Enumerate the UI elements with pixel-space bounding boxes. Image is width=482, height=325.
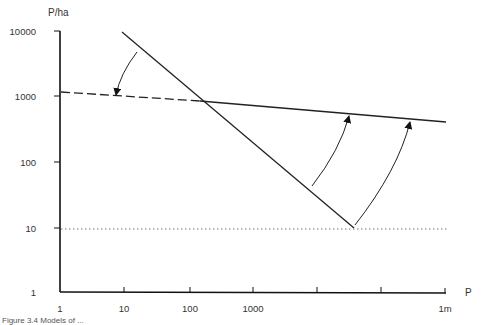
flat-dashed-line <box>61 92 200 101</box>
arrow-down-left <box>116 52 137 95</box>
y-ticks <box>54 31 60 228</box>
descending-line <box>122 32 354 228</box>
figure-caption: Figure 3.4 Models of ... <box>2 316 84 325</box>
y-axis-title: P/ha <box>48 7 69 18</box>
x-tick-10: 10 <box>119 303 130 314</box>
log-log-chart: 10000 1000 100 10 1 1 10 100 1000 1m P/h… <box>0 0 482 325</box>
x-tick-1000: 1000 <box>242 303 263 314</box>
x-tick-1m: 1m <box>438 303 451 314</box>
y-tick-10: 10 <box>25 223 36 234</box>
x-tick-1: 1 <box>57 303 62 314</box>
x-tick-100: 100 <box>182 303 198 314</box>
flat-solid-line <box>200 101 446 122</box>
y-tick-1000: 1000 <box>15 91 36 102</box>
y-tick-10000: 10000 <box>10 26 36 37</box>
y-tick-1: 1 <box>31 287 36 298</box>
arrow-up-middle <box>312 116 349 186</box>
y-tick-100: 100 <box>20 157 36 168</box>
arrow-up-right <box>355 122 410 225</box>
x-axis <box>60 292 446 293</box>
x-axis-title: P <box>465 287 472 298</box>
